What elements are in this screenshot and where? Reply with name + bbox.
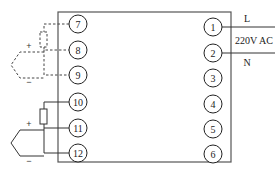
terminal-6: 6	[204, 145, 222, 163]
plus-sign-bottom: +	[26, 119, 31, 129]
minus-sign-top: −	[26, 77, 31, 87]
plus-sign-top: +	[26, 41, 31, 51]
terminal-label: 12	[73, 148, 83, 159]
resistor-icon	[40, 109, 47, 124]
terminal-label: 4	[211, 99, 216, 110]
terminal-4: 4	[204, 95, 222, 113]
terminal-1: 1	[204, 18, 222, 36]
thermocouple-dashed-icon	[11, 52, 44, 78]
voltage-label: 220V AC	[235, 35, 273, 46]
sensor-bottom-solid	[11, 102, 69, 156]
terminal-5: 5	[204, 120, 222, 138]
terminal-11: 11	[69, 119, 87, 137]
terminal-label: 1	[211, 22, 216, 33]
wiring-diagram: 7 8 9 10 11 12 1 2	[0, 0, 280, 175]
neutral-label: N	[243, 57, 250, 68]
power-wiring: L 220V AC N	[222, 13, 275, 68]
terminal-label: 3	[211, 73, 216, 84]
terminal-9: 9	[69, 66, 87, 84]
terminal-12: 12	[69, 144, 87, 162]
line-label: L	[244, 13, 250, 24]
thermocouple-icon	[11, 130, 44, 156]
controller-box	[58, 12, 231, 162]
resistor-dashed-icon	[40, 32, 47, 47]
terminal-label: 9	[76, 70, 81, 81]
terminal-label: 2	[211, 48, 216, 59]
sensor-top-dashed	[11, 24, 69, 78]
terminal-label: 11	[73, 123, 83, 134]
terminal-label: 6	[211, 149, 216, 160]
terminal-label: 8	[76, 45, 81, 56]
terminal-label: 10	[73, 97, 83, 108]
left-terminals: 7 8 9 10 11 12	[69, 15, 87, 162]
terminal-7: 7	[69, 15, 87, 33]
terminal-8: 8	[69, 41, 87, 59]
minus-sign-bottom: −	[26, 156, 31, 166]
terminal-3: 3	[204, 69, 222, 87]
right-terminals: 1 2 3 4 5 6	[204, 18, 222, 163]
terminal-label: 5	[211, 124, 216, 135]
terminal-10: 10	[69, 93, 87, 111]
terminal-label: 7	[76, 19, 81, 30]
terminal-2: 2	[204, 44, 222, 62]
